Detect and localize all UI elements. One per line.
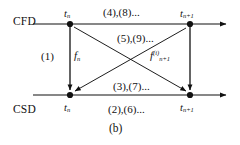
time-label-cfd-tn1: tn+1	[180, 9, 194, 20]
node-cfd-tn	[67, 21, 73, 27]
coupling-diagram-figure: CFD CSD tn tn+1 tn tn+1 (4),(8)... (5),(…	[0, 0, 240, 145]
step-note-left-vertical: (1)	[41, 51, 54, 62]
node-csd-tn1	[187, 92, 193, 98]
step-note-top-edge: (4),(8)...	[103, 7, 140, 18]
force-symbol-subscript: n	[77, 55, 80, 62]
time-label-csd-tn1: tn+1	[180, 103, 194, 114]
force-symbol-subscript: n+1	[159, 55, 170, 62]
time-label-cfd-tn: tn	[64, 9, 70, 20]
row-label-cfd: CFD	[13, 16, 36, 28]
node-cfd-tn1	[187, 21, 193, 27]
time-label-subscript: n+1	[183, 12, 194, 19]
time-label-subscript: n+1	[183, 106, 194, 113]
step-note-bottom-edge: (2),(6)...	[108, 104, 145, 115]
time-label-csd-tn: tn	[64, 103, 70, 114]
force-symbol-left: fn	[74, 50, 80, 62]
time-label-subscript: n	[67, 106, 70, 113]
figure-caption: (b)	[109, 123, 122, 135]
row-label-csd: CSD	[13, 104, 36, 116]
time-label-subscript: n	[67, 12, 70, 19]
node-csd-tn	[67, 92, 73, 98]
step-note-upper-middle: (5),(9)...	[117, 33, 154, 44]
step-note-lower-middle: (3),(7)...	[113, 81, 150, 92]
force-symbol-right: f(i)n+1	[150, 50, 170, 62]
